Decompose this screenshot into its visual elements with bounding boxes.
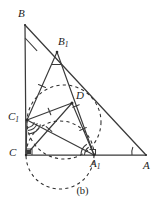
seg-B1A1	[57, 52, 94, 155]
geometry-figure: B B1 D C1 C A1 A (b)	[0, 0, 165, 203]
dot-A1	[93, 154, 96, 157]
vertex-label-D: D	[76, 90, 84, 101]
vertex-label-B: B	[18, 8, 25, 19]
figure-caption: (b)	[0, 185, 165, 196]
vertex-label-B1: B1	[58, 36, 68, 47]
vertex-label-A1: A1	[90, 158, 100, 169]
vertex-label-B1-sub: 1	[65, 40, 69, 49]
vertex-label-C1: C1	[8, 111, 19, 122]
vertex-label-A1-sub: 1	[97, 162, 101, 171]
dot-D	[71, 102, 74, 105]
dot-C	[25, 154, 27, 156]
vertex-label-C1-sub: 1	[15, 115, 19, 124]
dot-A	[145, 154, 147, 156]
side-BC	[25, 25, 26, 155]
angle-at-A	[132, 147, 133, 155]
dashed-circles-group	[26, 85, 101, 189]
dot-C1	[26, 119, 29, 122]
geometry-canvas	[0, 0, 165, 203]
dot-B1	[56, 51, 59, 54]
vertex-label-A: A	[143, 160, 150, 171]
vertex-label-C: C	[9, 147, 16, 158]
inner-segments	[26, 52, 94, 155]
angle-at-B	[25, 38, 37, 51]
dot-B	[24, 24, 26, 26]
right-angle-at-C-dot	[27, 150, 31, 154]
